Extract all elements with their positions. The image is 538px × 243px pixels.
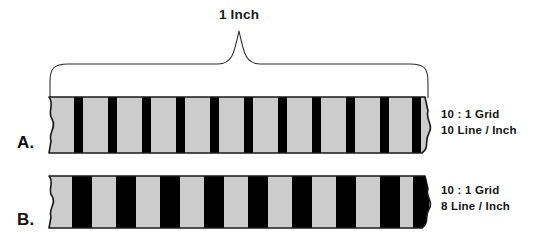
brace-icon — [40, 24, 440, 98]
one-inch-brace — [40, 24, 440, 98]
grid-strip-a-graphic — [44, 93, 436, 157]
annotation-a-density: 10 Line / Inch — [441, 123, 517, 139]
row-label-a: A. — [17, 133, 35, 153]
grid-strip-b-graphic — [44, 172, 436, 232]
annotation-a: 10 : 1 Grid 10 Line / Inch — [441, 107, 517, 139]
annotation-b-density: 8 Line / Inch — [441, 199, 510, 215]
annotation-b: 10 : 1 Grid 8 Line / Inch — [441, 183, 510, 215]
annotation-a-ratio: 10 : 1 Grid — [441, 107, 517, 123]
brace-caption: 1 Inch — [0, 7, 478, 22]
grid-line-figure: 1 Inch — [0, 0, 538, 243]
row-label-b: B. — [17, 210, 35, 230]
grid-strip-a — [44, 93, 436, 157]
annotation-b-ratio: 10 : 1 Grid — [441, 183, 510, 199]
grid-strip-b — [44, 172, 436, 232]
grid-strip-a-fill — [44, 93, 436, 157]
grid-strip-b-fill — [44, 172, 436, 232]
